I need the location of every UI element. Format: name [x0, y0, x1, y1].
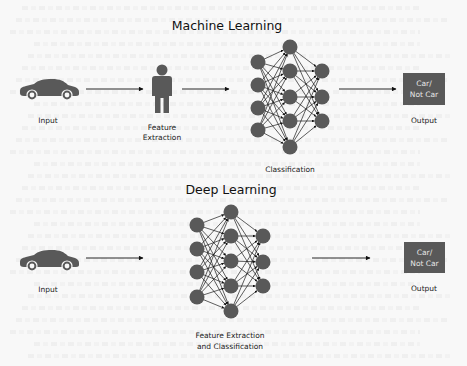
ml-output-line2: Not Car — [403, 89, 445, 100]
network-node — [256, 255, 271, 270]
network-edge — [203, 275, 224, 284]
network-node — [190, 290, 205, 305]
network-node — [315, 64, 330, 79]
network-node — [251, 55, 266, 70]
dl-network-label-1: Feature Extraction — [195, 331, 264, 341]
network-edge — [203, 288, 223, 295]
network-edge — [264, 133, 283, 143]
network-node — [251, 123, 266, 138]
dl-input-label: Input — [38, 285, 57, 295]
ml-input-car-icon — [20, 79, 79, 100]
network-node — [283, 140, 298, 155]
ml-neural-network-icon — [251, 40, 330, 155]
ml-vs-dl-diagram: Machine Learning Deep Learning Input Fea… — [0, 0, 467, 366]
network-edge — [264, 50, 283, 59]
dl-output-box: Car/ Not Car — [404, 242, 445, 273]
dl-title: Deep Learning — [185, 182, 276, 197]
network-edge — [203, 300, 224, 309]
dl-input-car-icon — [20, 250, 79, 271]
dl-network-label-2: and Classification — [197, 342, 263, 352]
network-node — [190, 265, 205, 280]
network-edge — [263, 102, 285, 125]
network-node — [224, 279, 239, 294]
ml-person-icon — [152, 65, 172, 114]
network-edge — [236, 216, 257, 231]
network-node — [315, 114, 330, 129]
ml-feature-label-2: Extraction — [143, 133, 181, 143]
ml-input-label: Input — [38, 116, 57, 126]
network-node — [315, 90, 330, 105]
dl-output-label: Output — [411, 284, 437, 294]
network-edge — [236, 291, 257, 307]
network-edge — [262, 53, 285, 80]
network-edge — [234, 243, 260, 305]
network-edge — [203, 215, 224, 223]
ml-output-label: Output — [411, 116, 437, 126]
ml-output-box: Car/ Not Car — [403, 73, 445, 105]
network-node — [283, 64, 298, 79]
ml-output-line1: Car/ — [403, 78, 445, 89]
dl-output-line1: Car/ — [404, 247, 445, 258]
network-node — [283, 40, 298, 55]
dl-output-line2: Not Car — [404, 258, 445, 269]
network-edge — [293, 78, 319, 141]
network-edge — [295, 101, 316, 116]
network-node — [224, 205, 239, 220]
ml-feature-label-1: Feature — [148, 123, 176, 133]
network-node — [251, 101, 266, 116]
network-node — [256, 279, 271, 294]
network-node — [190, 242, 205, 257]
network-edge — [295, 51, 316, 66]
ml-title: Machine Learning — [172, 18, 283, 33]
network-node — [256, 229, 271, 244]
dl-neural-network-icon — [190, 205, 271, 319]
network-node — [224, 254, 239, 269]
network-node — [283, 90, 298, 105]
network-node — [224, 304, 239, 319]
network-node — [224, 229, 239, 244]
network-node — [251, 78, 266, 93]
network-node — [283, 114, 298, 129]
ml-classification-label: Classification — [265, 165, 315, 175]
network-node — [190, 218, 205, 233]
